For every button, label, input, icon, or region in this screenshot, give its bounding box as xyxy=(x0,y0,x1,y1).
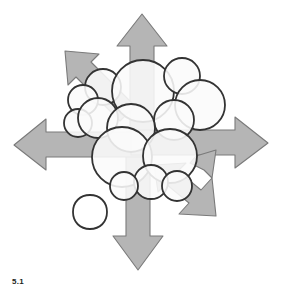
figure-caption: 5.1 xyxy=(12,278,24,286)
circle-bubble xyxy=(162,171,192,201)
circle-bubble xyxy=(110,172,138,200)
figure-diagram xyxy=(0,0,284,284)
figure-container: 5.1 xyxy=(0,0,284,299)
detached-circle xyxy=(73,195,107,229)
circle-bubble-isolated xyxy=(73,195,107,229)
